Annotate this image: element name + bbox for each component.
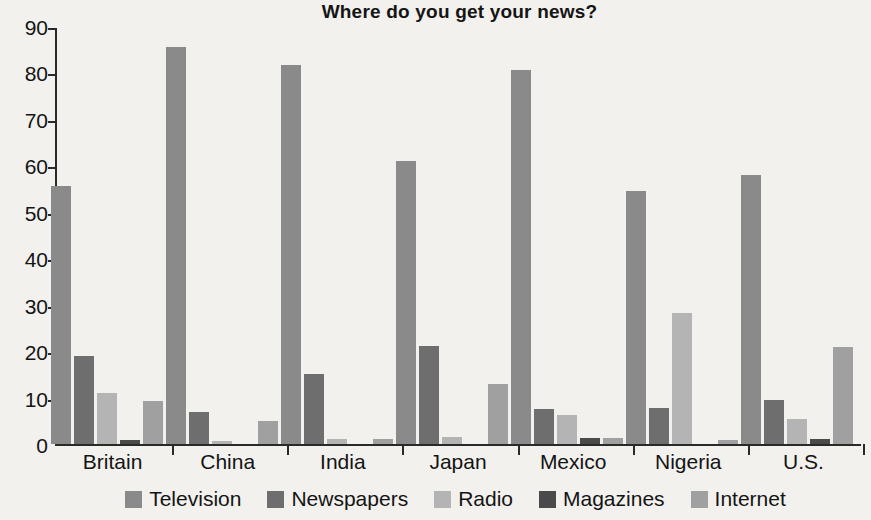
bar [166, 47, 186, 444]
x-axis-tick-mark [287, 444, 289, 455]
bar [557, 415, 577, 444]
legend-item[interactable]: Internet [691, 487, 786, 511]
bar [534, 409, 554, 444]
x-axis-tick-mark [402, 444, 404, 455]
legend-label: Magazines [563, 487, 665, 511]
bar [626, 191, 646, 444]
legend-label: Internet [715, 487, 786, 511]
legend-item[interactable]: Television [125, 487, 241, 511]
legend-label: Radio [458, 487, 513, 511]
bar-group [511, 28, 623, 444]
bar-group [281, 28, 393, 444]
bar-chart: Where do you get your news? 010203040506… [0, 0, 871, 520]
x-axis-tick-mark [172, 444, 174, 455]
x-axis-tick-mark [518, 444, 520, 455]
legend-swatch-icon [267, 491, 284, 508]
x-axis-tick-mark [748, 444, 750, 455]
bar [649, 408, 669, 444]
x-axis-label: Mexico [540, 450, 607, 474]
legend-swatch-icon [125, 491, 142, 508]
legend-label: Television [149, 487, 241, 511]
bar [787, 419, 807, 444]
x-axis-end-mark [863, 444, 865, 455]
bar [120, 440, 140, 444]
legend-item[interactable]: Newspapers [267, 487, 408, 511]
bar-group [396, 28, 508, 444]
bar [442, 437, 462, 444]
bar [672, 313, 692, 444]
bar [511, 70, 531, 444]
legend-swatch-icon [434, 491, 451, 508]
bar [764, 400, 784, 444]
bar [488, 384, 508, 444]
bar [396, 161, 416, 444]
legend-item[interactable]: Radio [434, 487, 513, 511]
legend-swatch-icon [691, 491, 708, 508]
plot-area: 0102030405060708090 [55, 28, 861, 446]
bar [810, 439, 830, 444]
bar [580, 438, 600, 444]
legend-swatch-icon [539, 491, 556, 508]
bar [304, 374, 324, 444]
bar [833, 347, 853, 444]
x-axis-label: China [200, 450, 255, 474]
bar [741, 175, 761, 444]
bar [143, 401, 163, 444]
bar [281, 65, 301, 444]
bar-group [741, 28, 853, 444]
bar [373, 439, 393, 444]
bar [603, 438, 623, 444]
bar [74, 356, 94, 444]
bar [97, 393, 117, 444]
bar [51, 186, 71, 444]
bar [718, 440, 738, 444]
x-axis-tick-mark [633, 444, 635, 455]
x-axis-label: Nigeria [655, 450, 722, 474]
bar [212, 441, 232, 444]
x-axis-label: U.S. [783, 450, 824, 474]
bar-group [166, 28, 278, 444]
bar [189, 412, 209, 445]
x-axis-label: India [320, 450, 366, 474]
bar [327, 439, 347, 444]
bar-group [51, 28, 163, 444]
x-axis-label: Britain [83, 450, 143, 474]
legend-label: Newspapers [291, 487, 408, 511]
chart-legend: TelevisionNewspapersRadioMagazinesIntern… [0, 487, 871, 511]
legend-item[interactable]: Magazines [539, 487, 665, 511]
chart-title: Where do you get your news? [0, 1, 871, 23]
bar-group [626, 28, 738, 444]
bar [419, 346, 439, 444]
x-axis-label: Japan [429, 450, 486, 474]
bar [258, 421, 278, 444]
